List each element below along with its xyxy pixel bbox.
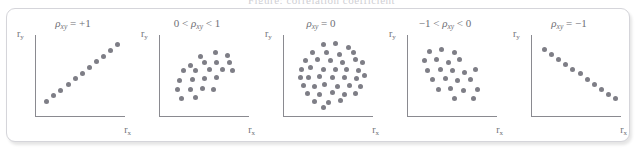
scatter-dot — [181, 68, 186, 73]
x-axis-label: rx — [496, 125, 503, 136]
scatter-dot — [308, 65, 313, 70]
scatter-dot — [342, 75, 347, 80]
scatter-dot — [188, 63, 193, 68]
scatter-dot — [338, 98, 343, 103]
scatter-dot — [211, 87, 216, 92]
scatter-dot — [455, 78, 460, 83]
scatter-dot — [80, 71, 85, 76]
scatter-panel-4: −1 < ρxy < 0ryrx — [385, 13, 505, 139]
scatter-dot — [190, 77, 195, 82]
scatter-dot — [443, 76, 448, 81]
scatter-dot — [452, 96, 457, 101]
scatter-points — [160, 35, 249, 116]
scatter-dot — [312, 84, 317, 89]
scatter-dot — [578, 71, 583, 76]
scatter-dot — [207, 67, 212, 72]
scatter-dot — [362, 73, 367, 78]
panel-title: 0 < ρxy < 1 — [137, 17, 257, 31]
scatter-dot — [66, 82, 71, 87]
scatter-dot — [230, 68, 235, 73]
scatter-dot — [475, 87, 480, 92]
scatter-dot — [599, 87, 604, 92]
scatter-dot — [51, 93, 56, 98]
scatter-dot — [87, 65, 92, 70]
scatter-dot — [175, 87, 180, 92]
scatter-dot — [225, 53, 230, 58]
scatter-dot — [321, 67, 326, 72]
scatter-dot — [471, 96, 476, 101]
scatter-panel-1: ρxy = +1ryrx — [13, 13, 133, 139]
scatter-dot — [353, 57, 358, 62]
scatter-dot — [299, 67, 304, 72]
scatter-dot — [227, 60, 232, 65]
scatter-dot — [298, 75, 303, 80]
scatter-dot — [347, 83, 352, 88]
scatter-dot — [422, 58, 427, 63]
y-axis-label: ry — [141, 29, 148, 40]
scatter-dot — [312, 99, 317, 104]
scatter-dot — [115, 42, 120, 47]
scatter-dot — [306, 75, 311, 80]
scatter-panel-2: 0 < ρxy < 1ryrx — [137, 13, 257, 139]
scatter-dot — [322, 82, 327, 87]
scatter-points — [408, 35, 497, 116]
scatter-panel-3: ρxy = 0ryrx — [261, 13, 381, 139]
scatter-dot — [202, 76, 207, 81]
scatter-dot — [94, 59, 99, 64]
scatter-dot — [606, 92, 611, 97]
scatter-dot — [468, 77, 473, 82]
scatter-dot — [462, 70, 467, 75]
scatter-dot — [310, 50, 315, 55]
x-axis-label: rx — [124, 125, 131, 136]
scatter-dot — [200, 86, 205, 91]
x-axis-label: rx — [620, 125, 627, 136]
scatter-dot — [301, 83, 306, 88]
scatter-dot — [438, 67, 443, 72]
scatter-dot — [333, 41, 338, 46]
scatter-dot — [202, 60, 207, 65]
scatter-dot — [448, 86, 453, 91]
scatter-dot — [344, 67, 349, 72]
scatter-dot — [321, 42, 326, 47]
y-axis-label: ry — [389, 29, 396, 40]
scatter-dot — [570, 67, 575, 72]
scatter-dot — [214, 75, 219, 80]
scatter-dot — [317, 92, 322, 97]
scatter-dot — [193, 95, 198, 100]
scatter-dot — [452, 50, 457, 55]
scatter-dot — [214, 60, 219, 65]
scatter-dot — [585, 77, 590, 82]
panel-title: ρxy = 0 — [261, 17, 381, 31]
scatter-dot — [73, 76, 78, 81]
y-axis-label: ry — [265, 29, 272, 40]
cut-off-caption: Figure: correlation coefficient — [0, 0, 643, 4]
scatter-dot — [346, 45, 351, 50]
scatter-dot — [108, 48, 113, 53]
scatter-dot — [188, 87, 193, 92]
x-axis-label: rx — [248, 125, 255, 136]
scatter-dot — [425, 68, 430, 73]
scatter-dot — [321, 105, 326, 110]
scatter-dot — [315, 57, 320, 62]
scatter-dot — [101, 54, 106, 59]
scatter-dot — [434, 57, 439, 62]
scatter-dot — [563, 62, 568, 67]
x-axis-label: rx — [372, 125, 379, 136]
scatter-dot — [330, 90, 335, 95]
scatter-dot — [613, 96, 618, 101]
scatter-dot — [360, 60, 365, 65]
scatter-dot — [556, 57, 561, 62]
scatter-points — [36, 35, 125, 116]
scatter-dot — [446, 60, 451, 65]
scatter-dot — [342, 92, 347, 97]
scatter-dot — [193, 68, 198, 73]
scatter-dot — [351, 50, 356, 55]
scatter-dot — [328, 58, 333, 63]
panel-title: ρxy = +1 — [13, 17, 133, 31]
scatter-points — [532, 35, 621, 116]
scatter-dot — [58, 88, 63, 93]
y-axis-label: ry — [17, 29, 24, 40]
scatter-dot — [542, 47, 547, 52]
scatter-dot — [213, 50, 218, 55]
scatter-dot — [427, 49, 432, 54]
